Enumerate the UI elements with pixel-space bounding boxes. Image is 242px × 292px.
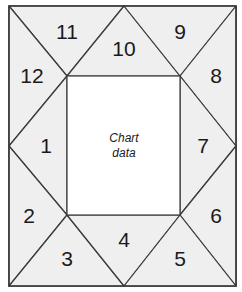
house-2-label: 2 [23, 204, 35, 227]
chart-diagram: Chart data 1 2 3 4 5 6 7 8 9 10 11 12 [0, 0, 242, 292]
house-7-label: 7 [197, 134, 209, 157]
house-3-label: 3 [61, 247, 73, 270]
house-9-label: 9 [174, 20, 186, 43]
center-label-line1: Chart [109, 131, 139, 145]
house-11-label: 11 [56, 20, 78, 43]
house-4-label: 4 [118, 228, 130, 251]
house-8-label: 8 [210, 64, 222, 87]
house-12-label: 12 [20, 64, 43, 87]
house-10-label: 10 [112, 37, 135, 60]
house-1-label: 1 [40, 134, 52, 157]
house-5-label: 5 [174, 247, 186, 270]
chart-svg: Chart data 1 2 3 4 5 6 7 8 9 10 11 12 [0, 0, 242, 292]
center-label-line2: data [112, 146, 136, 160]
house-6-label: 6 [210, 204, 222, 227]
